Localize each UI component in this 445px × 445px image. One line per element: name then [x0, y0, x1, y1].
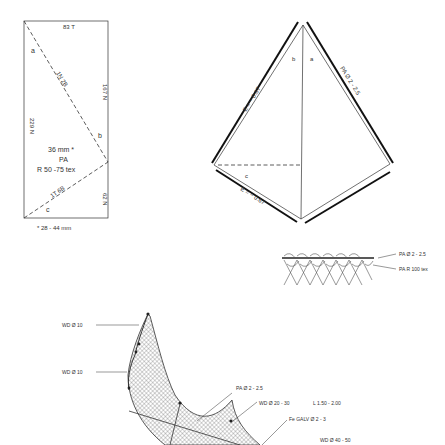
- upper-right-rope: [307, 22, 393, 163]
- diagonal-cut-upper: [24, 21, 108, 162]
- kite-centerline: [301, 25, 303, 219]
- lower-right-rope: [305, 172, 390, 223]
- kite-corner-c: c: [245, 173, 248, 179]
- net-assembly: WD Ø 10 WD Ø 10 PA Ø 2 - 2.5 WD Ø 20 - 3…: [62, 312, 351, 445]
- material-label: PA: [59, 156, 68, 163]
- frame-mid-label: WD Ø 10: [62, 369, 83, 375]
- right-lower-edge-label: 62 N: [102, 193, 108, 206]
- kite-net-panel: E = ~ 0.67 E = ~ 0.67 PA Ø 2 - 2.5 b a c: [212, 22, 393, 223]
- twine-label: PA R 100 tex: [399, 266, 428, 272]
- kite-corner-a: a: [310, 56, 314, 62]
- mesh-size-label: 36 mm *: [48, 146, 74, 153]
- net-body: [128, 314, 260, 445]
- rope-leader: [378, 254, 396, 258]
- top-edge-label: 83 T: [63, 24, 75, 30]
- right-upper-edge-label: 167 N: [102, 84, 108, 100]
- rectangular-net-panel: 83 T 229 N 167 N 62 N 1N 2B 1T 6B a b c …: [24, 21, 108, 231]
- corner-c-label: c: [46, 206, 50, 213]
- leader-4: [233, 402, 257, 421]
- pole-label: WD Ø 40 - 50: [320, 437, 351, 443]
- fishing-net-diagram: 83 T 229 N 167 N 62 N 1N 2B 1T 6B a b c …: [0, 0, 445, 445]
- selvedge-detail: PA Ø 2 - 2.5 PA R 100 tex: [282, 251, 428, 285]
- leader-5: [262, 420, 287, 445]
- rope-label: PA Ø 2 - 2.5: [236, 385, 263, 391]
- corner-b-label: b: [98, 132, 102, 139]
- panel-outline: [24, 21, 108, 218]
- footnote-label: * 28 - 44 mm: [37, 225, 71, 231]
- spar-length-label: L 1.50 - 2.00: [313, 400, 341, 406]
- left-edge-label: 229 N: [29, 118, 35, 134]
- twine-label: R 50 -75 tex: [37, 166, 76, 173]
- corner-a-label: a: [31, 47, 35, 54]
- frame-top-label: WD Ø 10: [62, 322, 83, 328]
- lower-left-hanging-ratio: E = ~ 0.67: [239, 186, 266, 206]
- upper-left-hanging-ratio: E = ~ 0.67: [242, 85, 262, 112]
- rope-label: PA Ø 2 - 2.5: [399, 251, 426, 257]
- twine-leader: [373, 265, 396, 269]
- wire-label: Fe GALV Ø 2 - 3: [289, 416, 326, 422]
- spar-label: WD Ø 20 - 30: [259, 400, 290, 406]
- kite-corner-b: b: [292, 56, 296, 62]
